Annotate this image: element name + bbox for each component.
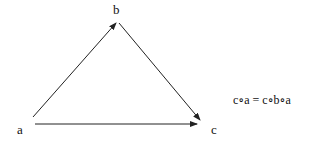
arrow-a-to-b [33,23,116,117]
arrow-b-to-c [119,23,200,120]
commutative-triangle-diagram: a b c c∘a = c∘b∘a [0,0,318,141]
node-label-c: c [211,122,217,137]
composition-equation: c∘a = c∘b∘a [233,93,291,107]
node-label-a: a [17,122,23,137]
node-label-b: b [113,2,120,17]
